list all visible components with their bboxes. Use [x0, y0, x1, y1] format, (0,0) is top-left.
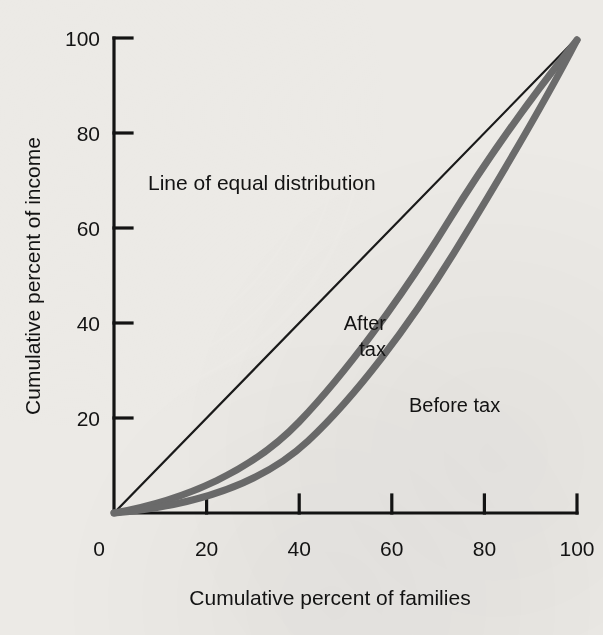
x-axis-tick-labels: 0 20 40 60 80 100 — [93, 537, 594, 560]
x-tick-label-20: 20 — [195, 537, 218, 560]
y-axis-title: Cumulative percent of income — [21, 137, 44, 415]
annotation-line-of-equal-distribution: Line of equal distribution — [148, 171, 376, 194]
chart-canvas: 100 80 60 40 20 0 20 40 60 80 100 Cumula… — [0, 0, 603, 635]
y-tick-label-40: 40 — [77, 312, 100, 335]
y-tick-label-80: 80 — [77, 122, 100, 145]
y-tick-label-100: 100 — [65, 27, 100, 50]
y-tick-label-20: 20 — [77, 407, 100, 430]
y-axis-tick-labels: 100 80 60 40 20 — [65, 27, 100, 430]
annotation-after-tax-line1: After — [344, 312, 387, 334]
x-tick-label-60: 60 — [380, 537, 403, 560]
annotation-after-tax-line2: tax — [359, 338, 386, 360]
y-tick-label-60: 60 — [77, 217, 100, 240]
series-group — [114, 38, 577, 513]
y-axis-ticks — [114, 38, 132, 418]
x-tick-label-80: 80 — [473, 537, 496, 560]
lorenz-curve-figure: 100 80 60 40 20 0 20 40 60 80 100 Cumula… — [0, 0, 603, 635]
x-axis-title: Cumulative percent of families — [189, 586, 470, 609]
x-tick-label-100: 100 — [559, 537, 594, 560]
annotation-before-tax: Before tax — [409, 394, 500, 416]
x-tick-label-40: 40 — [288, 537, 311, 560]
series-line-of-equal-distribution — [114, 38, 577, 513]
x-axis-ticks — [207, 495, 577, 513]
x-tick-label-0: 0 — [93, 537, 105, 560]
